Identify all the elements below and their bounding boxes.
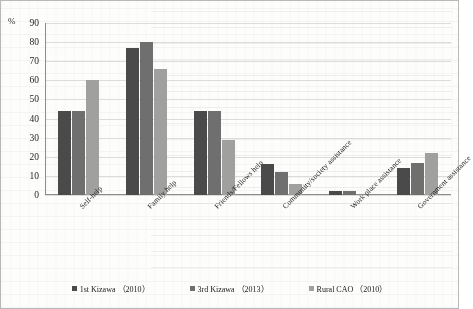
y-axis-unit-label: % xyxy=(8,16,16,26)
bar-group: Government assistance xyxy=(383,23,451,195)
bar xyxy=(261,164,274,195)
legend-item: Rural CAO （2010） xyxy=(309,283,388,294)
y-axis-tick-label: 90 xyxy=(30,18,40,28)
y-axis-tick-label: 10 xyxy=(30,171,40,181)
bar-groups: Self-helpFamily helpFriends/Fellows help… xyxy=(45,23,451,195)
bar-group: Work place assistance xyxy=(316,23,384,195)
bar xyxy=(411,163,424,195)
bar xyxy=(86,80,99,195)
bar-group: Self-help xyxy=(45,23,113,195)
bar xyxy=(275,172,288,195)
legend-swatch xyxy=(72,286,77,291)
y-axis-tick-label: 30 xyxy=(30,132,40,142)
bar xyxy=(72,111,85,195)
y-axis-tick-label: 0 xyxy=(34,190,39,200)
gridline xyxy=(45,195,451,196)
y-axis-tick-label: 80 xyxy=(30,37,40,47)
y-axis-tick-label: 60 xyxy=(30,75,40,85)
bar xyxy=(194,111,207,195)
bar xyxy=(58,111,71,195)
bar xyxy=(208,111,221,195)
bar xyxy=(397,168,410,195)
bar xyxy=(140,42,153,195)
legend-item: 1st Kizawa （2010） xyxy=(72,283,150,294)
y-axis-tick-label: 20 xyxy=(30,152,40,162)
legend-swatch xyxy=(190,286,195,291)
y-axis-tick-label: 50 xyxy=(30,94,40,104)
y-axis-tick-label: 70 xyxy=(30,56,40,66)
chart-legend: 1st Kizawa （2010）3rd Kizawa （2013）Rural … xyxy=(1,283,458,294)
legend-item: 3rd Kizawa （2013） xyxy=(190,283,269,294)
bar-group: Family help xyxy=(113,23,181,195)
bar-group: Friends/Fellows help xyxy=(180,23,248,195)
bar xyxy=(329,191,342,195)
legend-swatch xyxy=(309,286,314,291)
bar xyxy=(343,191,356,195)
legend-label: Rural CAO （2010） xyxy=(317,283,388,294)
bar-group: Community/society assistance xyxy=(248,23,316,195)
bar xyxy=(154,69,167,195)
bar xyxy=(126,48,139,195)
legend-label: 3rd Kizawa （2013） xyxy=(198,283,269,294)
y-axis-tick-label: 40 xyxy=(30,113,40,123)
legend-label: 1st Kizawa （2010） xyxy=(80,283,150,294)
plot-area: 0102030405060708090 Self-helpFamily help… xyxy=(45,23,451,195)
